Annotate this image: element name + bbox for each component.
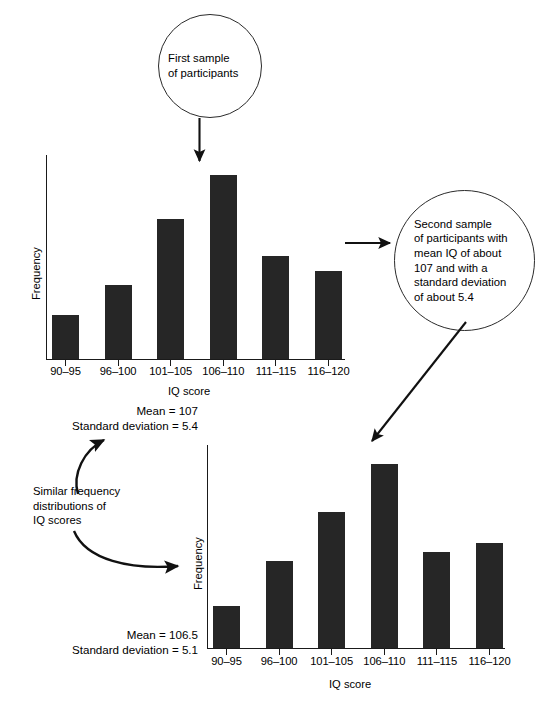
x-tick-label-116–120: 116–120 bbox=[460, 655, 520, 667]
similar-distributions-note: Similar frequency distributions of IQ sc… bbox=[33, 484, 173, 528]
figure-canvas: First sample of participants Second samp… bbox=[0, 0, 558, 709]
x-tick-label-111–115: 111–115 bbox=[407, 655, 467, 667]
x-tick-label-101–105: 101–105 bbox=[302, 655, 362, 667]
chart-sample-2: Frequency 90–9596–100101–105106–110111–1… bbox=[0, 0, 558, 709]
x-tick-label-90–95: 90–95 bbox=[197, 655, 257, 667]
chart-2-x-tick-labels: 90–9596–100101–105106–110111–115116–120 bbox=[0, 0, 558, 685]
callout-first-sample-text: First sample of participants bbox=[159, 51, 238, 80]
chart-2-x-axis-label: IQ score bbox=[329, 678, 371, 690]
x-tick-label-96–100: 96–100 bbox=[249, 655, 309, 667]
sample-1-stats: Mean = 107 Standard deviation = 5.4 bbox=[0, 403, 198, 433]
x-tick-label-106–110: 106–110 bbox=[354, 655, 414, 667]
callout-second-sample-text: Second sample of participants with mean … bbox=[395, 217, 516, 305]
sample-2-stats: Mean = 106.5 Standard deviation = 5.1 bbox=[0, 627, 198, 657]
